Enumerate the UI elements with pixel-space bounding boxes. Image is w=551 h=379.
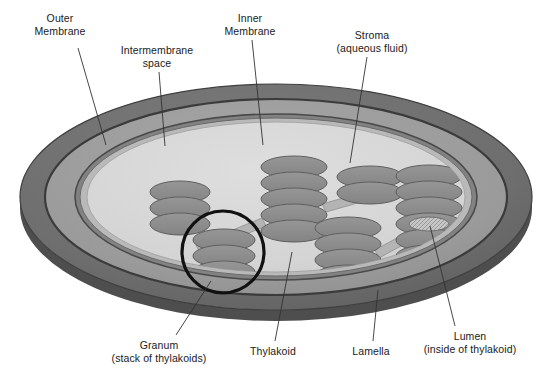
label-line: Stroma — [337, 29, 408, 42]
chloroplast-illustration — [0, 0, 551, 379]
label-line: Lamella — [352, 345, 389, 358]
label-line: Granum — [112, 339, 207, 352]
label-line: (inside of thylakoid) — [424, 343, 517, 356]
label-thylakoid: Thylakoid — [250, 345, 296, 358]
label-line: Intermembrane — [121, 44, 194, 57]
lumen-marker — [409, 217, 449, 231]
label-line: Membrane — [225, 25, 276, 38]
label-line: space — [121, 57, 194, 70]
label-line: Outer — [35, 12, 86, 25]
label-stroma: Stroma(aqueous fluid) — [337, 29, 408, 54]
chloroplast-diagram: OuterMembraneIntermembranespaceInnerMemb… — [0, 0, 551, 379]
label-line: Thylakoid — [250, 345, 296, 358]
label-line: Membrane — [35, 25, 86, 38]
thylakoid-disc — [337, 182, 403, 204]
granum-stack — [337, 166, 403, 204]
label-lumen: Lumen(inside of thylakoid) — [424, 330, 517, 355]
granum-stack — [150, 181, 210, 235]
label-granum: Granum(stack of thylakoids) — [112, 339, 207, 364]
label-lamella: Lamella — [352, 345, 389, 358]
label-line: (aqueous fluid) — [337, 42, 408, 55]
label-line: Lumen — [424, 330, 517, 343]
label-line: (stack of thylakoids) — [112, 352, 207, 365]
label-intermembrane-space: Intermembranespace — [121, 44, 194, 69]
label-outer-membrane: OuterMembrane — [35, 12, 86, 37]
label-inner-membrane: InnerMembrane — [225, 12, 276, 37]
label-line: Inner — [225, 12, 276, 25]
